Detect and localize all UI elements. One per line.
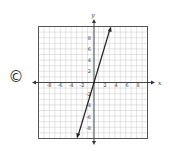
svg-text:8: 8 bbox=[88, 35, 91, 41]
axes: x y bbox=[32, 11, 162, 145]
coordinate-graph: x y -8 -6 -4 -2 2 4 6 8 8 6 4 2 -2 -4 -6… bbox=[0, 0, 169, 151]
svg-text:8: 8 bbox=[136, 82, 139, 88]
svg-text:-8: -8 bbox=[47, 82, 52, 88]
line-lower-arrow-icon bbox=[76, 133, 80, 139]
svg-text:6: 6 bbox=[88, 46, 91, 52]
y-axis-down-arrow-icon bbox=[92, 141, 96, 145]
svg-text:-4: -4 bbox=[69, 82, 74, 88]
y-axis-label: y bbox=[90, 11, 95, 19]
svg-text:-6: -6 bbox=[58, 82, 63, 88]
svg-text:-8: -8 bbox=[86, 125, 91, 131]
x-axis-right-arrow-icon bbox=[151, 81, 155, 85]
y-axis-up-arrow-icon bbox=[92, 19, 96, 23]
svg-text:4: 4 bbox=[88, 57, 91, 63]
svg-text:6: 6 bbox=[125, 82, 128, 88]
svg-text:4: 4 bbox=[114, 82, 117, 88]
svg-text:-2: -2 bbox=[80, 82, 85, 88]
x-axis-label: x bbox=[158, 79, 162, 86]
svg-text:-6: -6 bbox=[86, 114, 91, 120]
svg-text:2: 2 bbox=[88, 68, 91, 74]
svg-text:2: 2 bbox=[103, 82, 106, 88]
line-upper-arrow-icon bbox=[108, 27, 112, 33]
x-axis-left-arrow-icon bbox=[32, 81, 36, 85]
